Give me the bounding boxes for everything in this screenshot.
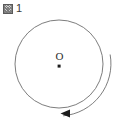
center-point-label: O [0, 51, 120, 62]
rotation-diagram [0, 0, 120, 124]
figure-container: 1 O [0, 0, 120, 124]
arrow-head-icon [61, 110, 71, 118]
center-dot-marker [58, 65, 61, 68]
main-circle [15, 20, 103, 108]
